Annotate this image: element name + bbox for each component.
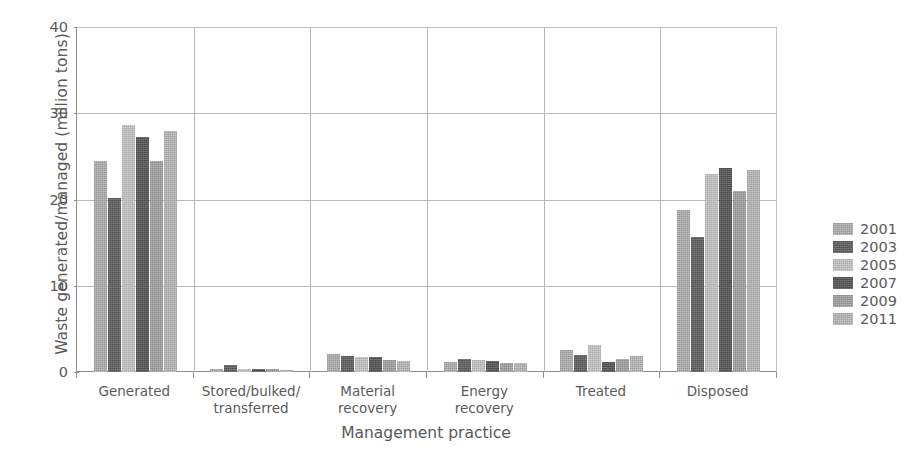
bar-2007-4 <box>602 362 615 372</box>
bars <box>544 27 661 372</box>
y-axis-tick-labels: 010203040 <box>4 27 68 372</box>
legend-swatch-2007 <box>833 277 853 289</box>
x-tick-mark-3 <box>426 372 427 378</box>
bar-group-5 <box>660 27 777 372</box>
bars <box>310 27 427 372</box>
bar-2005-3 <box>472 360 485 372</box>
legend-label-2007: 2007 <box>860 275 897 291</box>
x-tick-mark-2 <box>309 372 310 378</box>
bars <box>77 27 194 372</box>
bar-2005-0 <box>122 125 135 372</box>
bar-group-3 <box>427 27 544 372</box>
bar-2005-4 <box>588 345 601 372</box>
bar-2011-3 <box>514 363 527 372</box>
legend-label-2001: 2001 <box>860 221 897 237</box>
bar-2005-2 <box>355 357 368 372</box>
bar-2007-3 <box>486 361 499 372</box>
legend-item-2007[interactable]: 2007 <box>833 275 897 290</box>
separator-5 <box>660 27 661 372</box>
x-tick-mark-0 <box>76 372 77 378</box>
bar-2011-4 <box>630 356 643 372</box>
bars <box>427 27 544 372</box>
bar-2011-5 <box>747 170 760 372</box>
legend: 200120032005200720092011 <box>833 221 897 326</box>
y-tick-label-30: 30 <box>8 105 68 121</box>
plot-right-edge <box>776 27 777 372</box>
bar-2011-1 <box>280 370 293 372</box>
bar-2005-1 <box>238 369 251 372</box>
separator-1 <box>194 27 195 372</box>
legend-swatch-2005 <box>833 259 853 271</box>
bar-2011-2 <box>397 361 410 372</box>
bar-2009-3 <box>500 363 513 372</box>
bar-2009-1 <box>266 369 279 372</box>
bar-2003-4 <box>574 355 587 372</box>
x-tick-mark-4 <box>543 372 544 378</box>
y-tick-label-0: 0 <box>8 364 68 380</box>
bar-2001-1 <box>210 369 223 372</box>
bar-2007-2 <box>369 357 382 372</box>
bar-2003-1 <box>224 365 237 372</box>
x-tick-mark-5 <box>659 372 660 378</box>
bar-group-4 <box>544 27 661 372</box>
bar-2009-2 <box>383 360 396 372</box>
separator-3 <box>427 27 428 372</box>
bar-2003-5 <box>691 237 704 372</box>
legend-item-2003[interactable]: 2003 <box>833 239 897 254</box>
plot-area <box>76 27 776 372</box>
bar-2007-0 <box>136 137 149 372</box>
bar-2007-1 <box>252 369 265 372</box>
bar-2001-4 <box>560 350 573 372</box>
legend-swatch-2003 <box>833 241 853 253</box>
bars <box>194 27 311 372</box>
legend-item-2011[interactable]: 2011 <box>833 311 897 326</box>
bar-2007-5 <box>719 168 732 372</box>
legend-swatch-2011 <box>833 313 853 325</box>
legend-label-2005: 2005 <box>860 257 897 273</box>
legend-item-2005[interactable]: 2005 <box>833 257 897 272</box>
bar-2011-0 <box>164 131 177 372</box>
legend-item-2009[interactable]: 2009 <box>833 293 897 308</box>
separator-4 <box>544 27 545 372</box>
bar-2005-5 <box>705 174 718 372</box>
bar-2001-3 <box>444 362 457 372</box>
legend-label-2003: 2003 <box>860 239 897 255</box>
bar-2001-5 <box>677 210 690 372</box>
bar-2003-0 <box>108 198 121 372</box>
legend-item-2001[interactable]: 2001 <box>833 221 897 236</box>
legend-label-2009: 2009 <box>860 293 897 309</box>
y-tick-label-10: 10 <box>8 278 68 294</box>
y-tick-label-40: 40 <box>8 19 68 35</box>
bar-2003-3 <box>458 359 471 372</box>
bar-chart-figure: Waste generated/managed (million tons) 0… <box>0 0 923 470</box>
bar-2001-2 <box>327 354 340 372</box>
x-axis-title: Management practice <box>76 424 776 442</box>
y-tick-label-20: 20 <box>8 192 68 208</box>
bar-2009-5 <box>733 191 746 372</box>
separator-2 <box>310 27 311 372</box>
bar-2003-2 <box>341 356 354 372</box>
legend-label-2011: 2011 <box>860 311 897 327</box>
bar-group-2 <box>310 27 427 372</box>
x-tick-label-5: Disposed <box>648 383 788 400</box>
legend-swatch-2009 <box>833 295 853 307</box>
bars <box>660 27 777 372</box>
x-tick-mark-end <box>776 372 777 378</box>
bar-2009-4 <box>616 359 629 372</box>
bar-2001-0 <box>94 161 107 372</box>
x-tick-mark-1 <box>193 372 194 378</box>
legend-swatch-2001 <box>833 223 853 235</box>
bar-group-0 <box>77 27 194 372</box>
bar-2009-0 <box>150 161 163 372</box>
bar-group-1 <box>194 27 311 372</box>
